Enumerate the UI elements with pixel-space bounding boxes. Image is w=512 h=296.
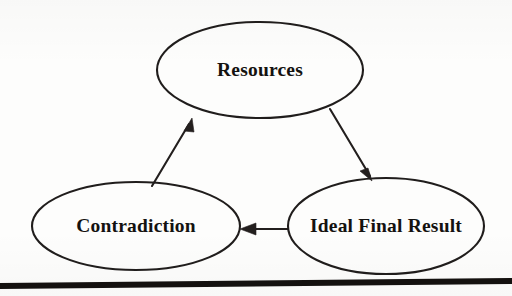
ideal-final-result-label: Ideal Final Result — [310, 215, 462, 236]
cycle-diagram: Resources Contradiction Ideal Final Resu… — [0, 0, 512, 296]
edge-line-resources-to-ifr — [330, 109, 370, 176]
arrow-head-to-resources — [184, 118, 194, 132]
edge-resources-to-ideal-final-result — [330, 109, 372, 181]
footer-rule — [0, 278, 512, 289]
node-resources[interactable]: Resources — [157, 22, 363, 118]
diagram-canvas: Resources Contradiction Ideal Final Resu… — [0, 0, 512, 296]
edge-ideal-final-result-to-contradiction — [240, 223, 288, 235]
resources-label: Resources — [217, 59, 303, 80]
node-contradiction[interactable]: Contradiction — [32, 182, 240, 270]
edge-contradiction-to-resources — [152, 118, 194, 186]
contradiction-label: Contradiction — [76, 215, 196, 236]
node-ideal-final-result[interactable]: Ideal Final Result — [288, 178, 484, 274]
arrow-head-to-contradiction — [240, 223, 256, 235]
edge-line-contradiction-to-resources — [152, 124, 189, 186]
